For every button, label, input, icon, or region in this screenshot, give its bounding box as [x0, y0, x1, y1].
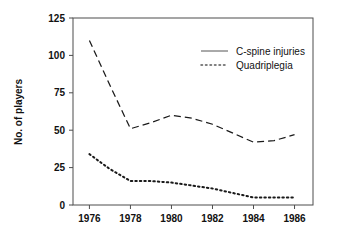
- legend-label-c-spine-injuries: C-spine injuries: [236, 46, 305, 57]
- x-tick-label: 1976: [78, 213, 101, 224]
- chart-figure: 0255075100125 197619781980198219841986 N…: [0, 0, 340, 238]
- y-tick-label: 125: [48, 13, 65, 24]
- legend-label-quadriplegia: Quadriplegia: [236, 60, 293, 71]
- line-chart: 0255075100125 197619781980198219841986 N…: [0, 0, 340, 238]
- y-axis-title: No. of players: [13, 79, 24, 146]
- y-tick-label: 75: [54, 87, 66, 98]
- y-tick-label: 25: [54, 162, 66, 173]
- y-tick-label: 50: [54, 125, 66, 136]
- x-tick-label: 1986: [283, 213, 306, 224]
- y-axis-ticks: [69, 18, 73, 205]
- legend: C-spine injuries Quadriplegia: [201, 46, 305, 71]
- x-tick-label: 1978: [119, 213, 142, 224]
- series-line-quadriplegia: [89, 154, 294, 197]
- x-tick-label: 1984: [242, 213, 265, 224]
- y-axis-tick-labels: 0255075100125: [48, 13, 65, 211]
- x-tick-label: 1980: [160, 213, 183, 224]
- x-tick-label: 1982: [201, 213, 224, 224]
- x-axis-tick-labels: 197619781980198219841986: [78, 213, 306, 224]
- y-tick-label: 100: [48, 50, 65, 61]
- x-axis-ticks: [89, 205, 294, 209]
- y-tick-label: 0: [59, 200, 65, 211]
